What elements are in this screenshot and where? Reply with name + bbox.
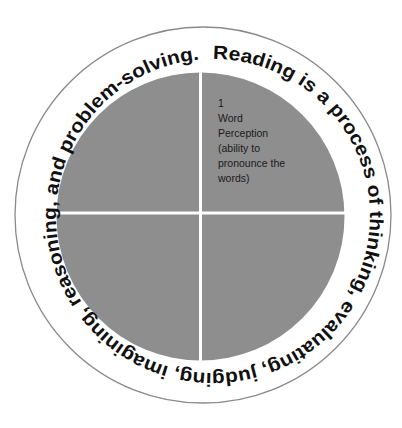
quadrant-line: Perception [218,126,328,141]
horizontal-divider [54,212,348,215]
quadrant-1-label: 1 Word Perception (ability to pronounce … [218,96,328,186]
vertical-divider [199,70,202,366]
quadrant-line: (ability to [218,141,328,156]
quadrant-line: pronounce the [218,156,328,171]
reading-process-diagram: Reading is a process of thinking, evalua… [0,0,402,428]
quadrant-number: 1 [218,96,328,111]
quadrant-line: Word [218,111,328,126]
quadrant-line: words) [218,171,328,186]
